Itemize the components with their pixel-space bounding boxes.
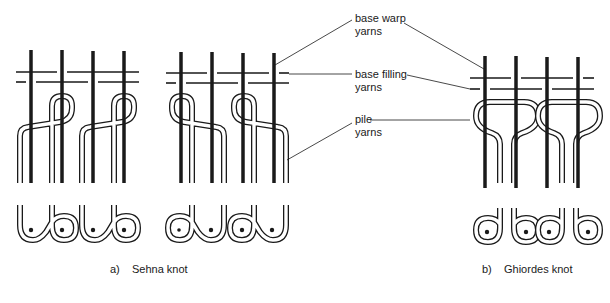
- sehna-knot-right-group: [166, 52, 289, 183]
- label-base-filling-yarns: base filling yarns: [355, 68, 407, 94]
- label-filling-line2: yarns: [355, 81, 407, 94]
- sehna-cross-section-left: [20, 205, 138, 240]
- label-pile-line1: pile: [355, 113, 382, 126]
- sehna-knot-left-group: [16, 50, 139, 183]
- label-warp-line2: yarns: [355, 25, 406, 38]
- caption-sehna-knot: a)Sehna knot: [110, 263, 188, 275]
- label-warp-line1: base warp: [355, 12, 406, 25]
- ghiordes-cross-section: [476, 208, 600, 242]
- sehna-cross-section-right: [168, 205, 286, 240]
- caption-ghiordes-knot: b)Ghiordes knot: [482, 263, 572, 275]
- pile-yarn-left-1: [20, 96, 72, 155]
- caption-a-letter: a): [110, 263, 132, 275]
- ghiordes-knot-group: [470, 56, 600, 188]
- label-filling-line1: base filling: [355, 68, 407, 81]
- knot-diagram: .warp { stroke:#1a1a1a; stroke-width:3.5…: [0, 0, 610, 303]
- label-pile-yarns: pile yarns: [355, 113, 382, 139]
- label-base-warp-yarns: base warp yarns: [355, 12, 406, 38]
- label-pile-line2: yarns: [355, 126, 382, 139]
- caption-b-text: Ghiordes knot: [504, 263, 572, 275]
- pile-yarn-left-2: [82, 96, 134, 155]
- caption-b-letter: b): [482, 263, 504, 275]
- caption-a-text: Sehna knot: [132, 263, 188, 275]
